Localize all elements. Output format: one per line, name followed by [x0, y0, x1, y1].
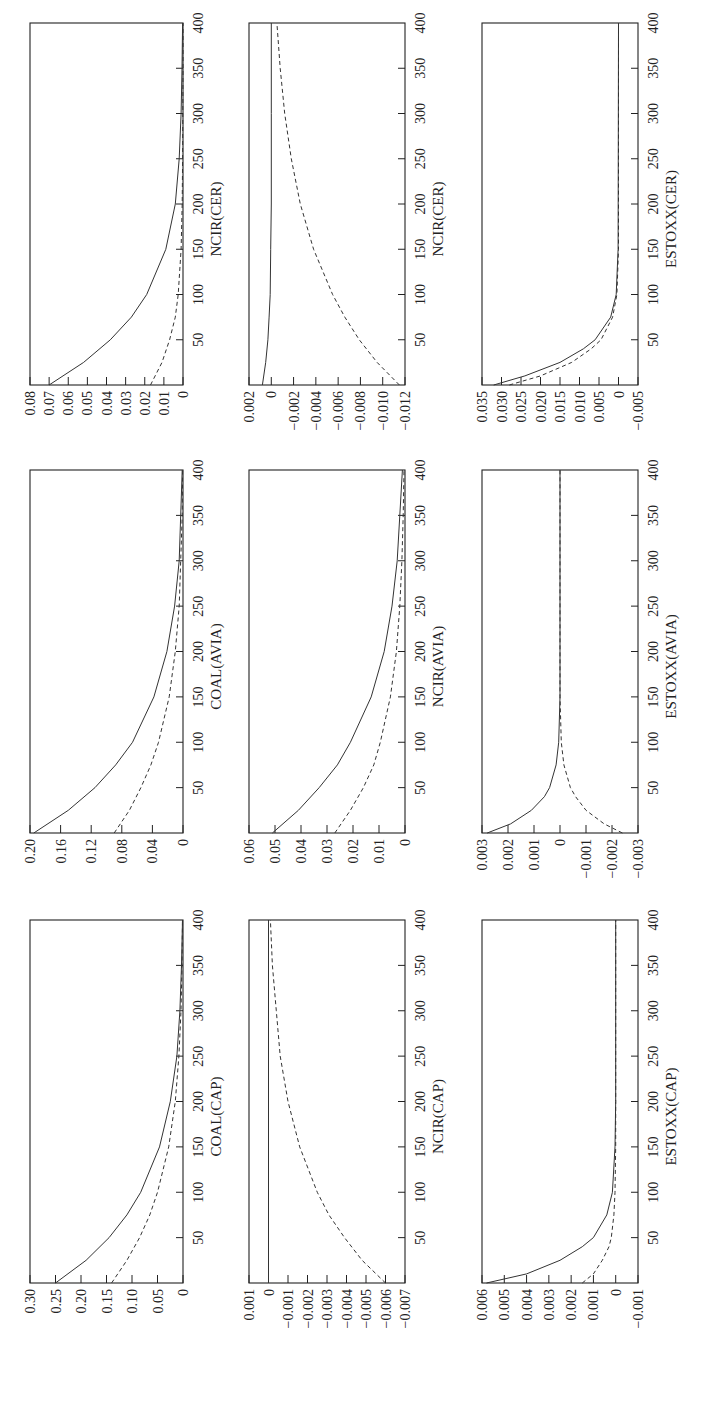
- x-tick-label: 200: [191, 1091, 206, 1112]
- y-tick-label: 0.01: [157, 391, 172, 416]
- dashed-series-line: [112, 920, 183, 1283]
- y-tick-label: −0.001: [579, 839, 594, 878]
- plot-frame: [249, 23, 405, 385]
- subplot-ncir-cer: 0.0020−0.002−0.004−0.006−0.008−0.010−0.0…: [242, 13, 447, 431]
- y-tick-label: 0: [612, 391, 627, 398]
- y-tick-label: −0.004: [340, 1289, 355, 1328]
- y-tick-label: 0.03: [119, 391, 134, 416]
- subplot-estoxx-cap: 0.0060.0050.0040.0030.0020.0010−0.001501…: [475, 910, 680, 1329]
- solid-series-line: [272, 470, 402, 833]
- plot-frame: [482, 23, 638, 385]
- y-tick-label: 0: [262, 1289, 277, 1296]
- dashed-series-line: [270, 920, 385, 1283]
- y-tick-label: 0.05: [268, 839, 283, 864]
- x-axis-label: NCIR(CAP): [430, 1079, 447, 1154]
- solid-series-line: [34, 470, 182, 833]
- plot-frame: [30, 23, 183, 385]
- x-tick-label: 200: [191, 194, 206, 215]
- x-tick-label: 300: [191, 103, 206, 124]
- x-tick-label: 300: [413, 103, 428, 124]
- x-tick-label: 200: [413, 1091, 428, 1112]
- y-tick-label: 0.010: [573, 391, 588, 423]
- x-tick-label: 250: [191, 596, 206, 617]
- y-tick-label: −0.002: [287, 391, 302, 430]
- x-tick-label: 300: [413, 1000, 428, 1021]
- x-tick-label: 250: [413, 596, 428, 617]
- x-tick-label: 150: [413, 239, 428, 260]
- x-tick-label: 150: [646, 239, 661, 260]
- x-tick-label: 400: [191, 13, 206, 34]
- y-tick-label: −0.003: [320, 1289, 335, 1328]
- y-tick-label: −0.010: [376, 391, 391, 430]
- x-tick-label: 100: [191, 284, 206, 305]
- x-tick-label: 400: [646, 460, 661, 481]
- x-tick-label: 100: [646, 732, 661, 753]
- y-tick-label: 0.003: [475, 839, 490, 871]
- x-tick-label: 100: [191, 1182, 206, 1203]
- x-tick-label: 200: [646, 1091, 661, 1112]
- dashed-series-line: [509, 23, 618, 385]
- x-tick-label: 400: [191, 460, 206, 481]
- x-tick-label: 50: [191, 333, 206, 347]
- y-tick-label: 0.25: [49, 1289, 64, 1314]
- x-tick-label: 200: [191, 641, 206, 662]
- y-tick-label: 0.01: [372, 839, 387, 864]
- y-tick-label: −0.006: [331, 391, 346, 430]
- plot-frame: [30, 920, 183, 1283]
- x-tick-label: 350: [413, 955, 428, 976]
- y-tick-label: −0.005: [631, 391, 646, 430]
- y-tick-label: 0.04: [100, 391, 115, 416]
- x-tick-label: 350: [191, 505, 206, 526]
- x-tick-label: 400: [646, 910, 661, 931]
- x-tick-label: 250: [191, 1046, 206, 1067]
- x-tick-label: 400: [413, 460, 428, 481]
- subplot-coal-avia: 0.200.160.120.080.0405010015020025030035…: [23, 460, 225, 864]
- subplot-ncir-cap: 0.0010−0.001−0.002−0.003−0.004−0.005−0.0…: [242, 910, 447, 1329]
- dashed-series-line: [560, 470, 622, 833]
- x-axis-label: NCIR(CER): [208, 181, 225, 256]
- x-axis-label: ESTOXX(CAP): [663, 1067, 680, 1165]
- y-tick-label: −0.002: [301, 1289, 316, 1328]
- x-axis-label: ESTOXX(CER): [663, 170, 680, 268]
- plot-frame: [482, 920, 638, 1283]
- y-tick-label: 0.002: [564, 1289, 579, 1321]
- x-tick-label: 100: [646, 284, 661, 305]
- x-axis-label: COAL(AVIA): [208, 623, 225, 709]
- subplot-estoxx-avia: 0.0030.0020.0010−0.001−0.002−0.003501001…: [475, 460, 680, 879]
- x-axis-label: ESTOXX(AVIA): [663, 614, 680, 718]
- x-tick-label: 200: [413, 641, 428, 662]
- y-tick-label: 0.04: [145, 839, 160, 864]
- y-tick-label: 0.005: [592, 391, 607, 423]
- x-tick-label: 250: [413, 148, 428, 169]
- x-tick-label: 50: [646, 1231, 661, 1245]
- x-tick-label: 300: [191, 1000, 206, 1021]
- x-tick-label: 250: [646, 1046, 661, 1067]
- x-axis-label: NCIR(AVIA): [430, 626, 447, 707]
- y-tick-label: 0.12: [84, 839, 99, 864]
- solid-series-line: [494, 23, 619, 385]
- x-tick-label: 150: [413, 1136, 428, 1157]
- x-tick-label: 200: [646, 194, 661, 215]
- y-tick-label: −0.001: [631, 1289, 646, 1328]
- x-tick-label: 350: [191, 955, 206, 976]
- y-tick-label: −0.003: [631, 839, 646, 878]
- y-tick-label: 0: [398, 839, 413, 846]
- subplot-estoxx-cer: 0.0350.0300.0250.0200.0150.0100.0050−0.0…: [475, 13, 680, 431]
- x-tick-label: 50: [413, 781, 428, 795]
- x-tick-label: 150: [413, 686, 428, 707]
- y-tick-label: −0.006: [379, 1289, 394, 1328]
- x-tick-label: 50: [413, 1231, 428, 1245]
- y-tick-label: 0.006: [475, 1289, 490, 1321]
- y-tick-label: 0.04: [294, 839, 309, 864]
- y-tick-label: 0.06: [61, 391, 76, 416]
- x-axis-label: COAL(CAP): [208, 1076, 225, 1156]
- x-tick-label: 50: [413, 333, 428, 347]
- x-tick-label: 400: [646, 13, 661, 34]
- y-tick-label: −0.012: [398, 391, 413, 430]
- y-tick-label: 0: [176, 1289, 191, 1296]
- y-tick-label: 0.08: [23, 391, 38, 416]
- x-tick-label: 350: [191, 58, 206, 79]
- x-tick-label: 100: [413, 732, 428, 753]
- y-tick-label: 0.002: [242, 391, 257, 423]
- x-tick-label: 350: [646, 58, 661, 79]
